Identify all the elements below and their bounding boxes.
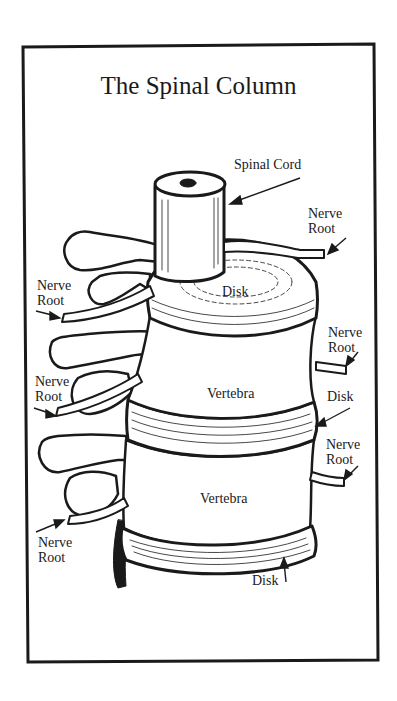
label-disk-right: Disk [327,389,353,404]
label-nerve-root-mid-right: Nerve Root [328,325,362,355]
spinous-process-upper [64,231,160,270]
label-vertebra-upper: Vertebra [207,386,254,401]
label-disk-bottom: Disk [252,573,278,588]
label-nerve-root-top-right: Nerve Root [308,206,342,236]
nerve-root-mid-right [316,362,346,374]
label-disk-top: Disk [222,284,248,299]
label-nerve-root-lower-right: Nerve Root [326,437,360,467]
label-nerve-root-lower-left: Nerve Root [38,535,72,565]
spinal-cord-center [180,179,196,187]
nerve-root-lower-right [310,472,344,486]
label-nerve-root-upper-left: Nerve Root [37,278,71,308]
label-spinal-cord: Spinal Cord [234,157,301,172]
diagram-title: The Spinal Column [0,72,397,100]
label-vertebra-lower: Vertebra [200,491,247,506]
spinous-process-lower [39,435,130,473]
label-nerve-root-mid-left: Nerve Root [35,374,69,404]
